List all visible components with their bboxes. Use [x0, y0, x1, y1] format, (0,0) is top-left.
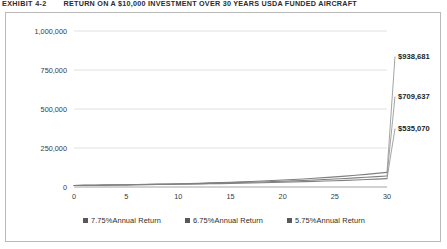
legend-swatch-icon — [287, 218, 292, 223]
legend-item[interactable]: 5.75%Annual Return — [287, 216, 365, 225]
gridlines — [74, 31, 387, 187]
exhibit-title-row: EXHIBIT 4-2 RETURN ON A $10,000 INVESTME… — [0, 0, 447, 10]
chart-legend: 7.75%Annual Return 6.75%Annual Return 5.… — [6, 209, 442, 231]
data-point-labels: $938,681$709,637$535,070 — [398, 52, 430, 133]
legend-item[interactable]: 7.75%Annual Return — [83, 216, 161, 225]
x-axis-tick-label: 0 — [72, 192, 76, 201]
y-axis-tick-label: 1,000,000 — [35, 27, 67, 36]
y-axis-tick-label: 750,000 — [41, 66, 67, 75]
exhibit-chart-root: EXHIBIT 4-2 RETURN ON A $10,000 INVESTME… — [0, 0, 447, 249]
legend-item-label: 7.75%Annual Return — [91, 216, 161, 225]
legend-item-label: 5.75%Annual Return — [295, 216, 365, 225]
exhibit-number-label: EXHIBIT 4-2 — [2, 0, 47, 8]
line-chart-svg: 0250,000500,000750,0001,000,000 05101520… — [6, 13, 442, 209]
x-axis-tick-label: 5 — [124, 192, 128, 201]
legend-item-label: 6.75%Annual Return — [193, 216, 263, 225]
x-axis-tick-labels: 051015202530 — [72, 192, 391, 201]
data-point-label: $709,637 — [398, 92, 430, 101]
y-axis-tick-label: 0 — [63, 183, 67, 192]
data-point-label: $938,681 — [398, 52, 430, 61]
x-axis-tick-label: 20 — [279, 192, 287, 201]
x-axis-tick-label: 15 — [226, 192, 234, 201]
data-point-label: $535,070 — [398, 124, 430, 133]
y-axis-tick-label: 250,000 — [41, 144, 67, 153]
y-axis-tick-label: 500,000 — [41, 105, 67, 114]
data-label-leader-lines — [387, 57, 395, 179]
page-title: RETURN ON A $10,000 INVESTMENT OVER 30 Y… — [64, 0, 357, 8]
x-axis-tick-label: 10 — [174, 192, 182, 201]
y-axis-tick-labels: 0250,000500,000750,0001,000,000 — [35, 27, 67, 192]
x-axis-tick-label: 30 — [383, 192, 391, 201]
legend-swatch-icon — [83, 218, 88, 223]
legend-item[interactable]: 6.75%Annual Return — [185, 216, 263, 225]
x-axis-tick-label: 25 — [331, 192, 339, 201]
series-lines — [74, 172, 387, 185]
legend-swatch-icon — [185, 218, 190, 223]
chart-frame: 0250,000500,000750,0001,000,000 05101520… — [5, 12, 441, 242]
